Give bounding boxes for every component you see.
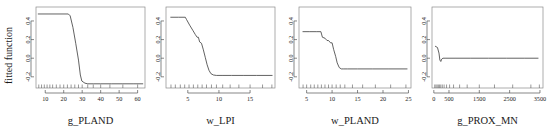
x-tick-label: 2500 — [503, 95, 515, 102]
y-tick-label: 0.2 — [155, 36, 162, 44]
y-tick-label: 0.4 — [155, 17, 162, 25]
x-tick-label: 15 — [247, 95, 253, 102]
x-tick-label: 3500 — [534, 95, 546, 102]
x-tick-label: 500 — [444, 95, 453, 102]
figure-panel-grid: fitted function -0.20.00.20.410203040506… — [0, 0, 547, 132]
plot-frame — [166, 7, 275, 88]
x-tick-label: 10 — [216, 95, 222, 102]
chart-1: -0.20.00.20.451015w_LPI — [146, 0, 279, 132]
fitted-function-curve — [170, 17, 272, 75]
x-tick-label: 5 — [305, 95, 308, 102]
x-axis: 510152025 — [305, 90, 411, 102]
rug-marks — [39, 85, 138, 89]
y-tick-label: -0.2 — [288, 72, 295, 82]
x-axis: 0500150025003500 — [432, 90, 546, 102]
panel-3: -0.20.00.20.40500150025003500g_PROX_MN — [412, 0, 547, 132]
y-tick-label: 0.4 — [25, 17, 32, 25]
x-tick-label: 1500 — [473, 95, 485, 102]
y-tick-label: 0.4 — [421, 17, 428, 25]
chart-3: -0.20.00.20.40500150025003500g_PROX_MN — [412, 0, 547, 132]
x-axis-title: g_PLAND — [68, 115, 114, 126]
x-tick-label: 60 — [135, 95, 141, 102]
x-axis-title: g_PROX_MN — [457, 115, 518, 126]
panel-2: -0.20.00.20.4510152025w_PLAND — [279, 0, 415, 132]
y-axis-label: fitted function — [0, 0, 16, 110]
y-tick-label: -0.2 — [421, 72, 428, 82]
x-tick-label: 10 — [42, 95, 48, 102]
y-axis: -0.20.00.20.4 — [25, 17, 35, 82]
y-axis-label-text: fitted function — [3, 27, 14, 84]
y-tick-label: 0.0 — [421, 54, 428, 62]
chart-0: -0.20.00.20.4102030405060g_PLAND — [16, 0, 149, 132]
x-tick-label: 40 — [98, 95, 104, 102]
panel-1: -0.20.00.20.451015w_LPI — [146, 0, 279, 132]
x-tick-label: 5 — [186, 95, 189, 102]
chart-2: -0.20.00.20.4510152025w_PLAND — [279, 0, 415, 132]
y-tick-label: -0.2 — [25, 72, 32, 82]
fitted-function-curve — [303, 32, 408, 69]
rug-marks — [171, 85, 272, 89]
x-tick-label: 10 — [329, 95, 335, 102]
y-tick-label: 0.2 — [421, 36, 428, 44]
y-axis: -0.20.00.20.4 — [421, 17, 431, 82]
fitted-function-curve — [38, 14, 143, 84]
rug-marks — [303, 85, 406, 89]
x-axis-title: w_PLAND — [331, 115, 379, 126]
x-tick-label: 15 — [354, 95, 360, 102]
y-tick-label: 0.4 — [288, 17, 295, 25]
x-tick-label: 0 — [432, 95, 435, 102]
x-tick-label: 30 — [79, 95, 85, 102]
x-tick-label: 20 — [380, 95, 386, 102]
y-tick-label: 0.2 — [25, 36, 32, 44]
y-tick-label: -0.2 — [155, 72, 162, 82]
x-tick-label: 50 — [116, 95, 122, 102]
y-axis: -0.20.00.20.4 — [288, 17, 298, 82]
y-tick-label: 0.0 — [155, 54, 162, 62]
x-axis: 102030405060 — [42, 90, 141, 102]
y-axis: -0.20.00.20.4 — [155, 17, 165, 82]
x-tick-label: 25 — [405, 95, 411, 102]
rug-marks — [435, 85, 540, 89]
x-axis: 51015 — [186, 90, 253, 102]
y-tick-label: 0.0 — [25, 54, 32, 62]
plot-frame — [36, 7, 145, 88]
x-axis-title: w_LPI — [206, 115, 235, 126]
plot-frame — [432, 7, 543, 88]
x-tick-label: 20 — [61, 95, 67, 102]
y-tick-label: 0.2 — [288, 36, 295, 44]
fitted-function-curve — [435, 46, 538, 61]
y-tick-label: 0.0 — [288, 54, 295, 62]
plot-frame — [299, 7, 411, 88]
panel-0: -0.20.00.20.4102030405060g_PLAND — [16, 0, 149, 132]
